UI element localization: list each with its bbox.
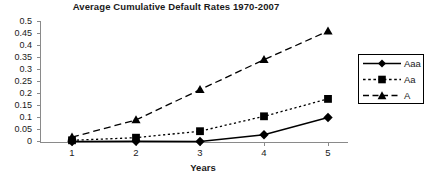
- chart-figure: Average Cumulative Default Rates 1970-20…: [0, 0, 432, 180]
- y-tick-label-0.45: 0.45: [0, 29, 32, 38]
- legend-swatch-aaa: [362, 56, 402, 71]
- y-tick-label-0.5: 0.5: [0, 17, 32, 26]
- legend-item-a[interactable]: A: [359, 88, 425, 103]
- legend-label-aa: Aa: [404, 74, 416, 85]
- x-tick-label-1: 1: [62, 148, 82, 158]
- x-tick-label-3: 3: [190, 148, 210, 158]
- x-tick-label-5: 5: [318, 148, 338, 158]
- y-tick-label-0.25: 0.25: [0, 77, 32, 86]
- y-tick-marks: [37, 22, 40, 142]
- y-tick-label-0.35: 0.35: [0, 53, 32, 62]
- y-tick-label-0.3: 0.3: [0, 65, 32, 74]
- legend-label-a: A: [404, 90, 410, 101]
- y-tick-label-0.4: 0.4: [0, 41, 32, 50]
- legend-item-aa[interactable]: Aa: [359, 72, 425, 87]
- y-tick-label-0.05: 0.05: [0, 125, 32, 134]
- x-tick-label-4: 4: [254, 148, 274, 158]
- series-markers-a: [67, 27, 332, 141]
- legend-label-aaa: Aaa: [404, 58, 421, 69]
- x-tick-label-2: 2: [126, 148, 146, 158]
- legend-swatch-aa: [362, 72, 402, 87]
- x-axis-label: Years: [148, 162, 258, 173]
- y-tick-label-0.15: 0.15: [0, 101, 32, 110]
- legend-swatch-a: [362, 88, 402, 103]
- chart-legend: Aaa Aa A: [358, 54, 424, 104]
- series-line-a: [72, 31, 328, 137]
- legend-item-aaa[interactable]: Aaa: [359, 56, 425, 71]
- y-tick-label-0.2: 0.2: [0, 89, 32, 98]
- y-tick-label-0.1: 0.1: [0, 113, 32, 122]
- y-tick-label-0: 0: [0, 137, 32, 146]
